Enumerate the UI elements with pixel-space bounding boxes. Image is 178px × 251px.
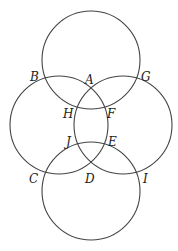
circle-bottom [42, 142, 140, 240]
label-f: F [106, 107, 116, 121]
label-a: A [84, 73, 94, 87]
circle-left [10, 76, 108, 174]
label-g: G [141, 70, 151, 84]
label-e: E [107, 135, 117, 149]
label-h: H [62, 107, 74, 121]
label-c: C [29, 172, 38, 186]
label-i: I [142, 172, 148, 186]
label-b: B [29, 70, 39, 84]
label-j: J [63, 135, 72, 149]
circle-right [74, 76, 172, 174]
four-circle-diagram: A B G H F J E C D I [0, 0, 178, 251]
circle-top [42, 11, 140, 109]
label-d: D [84, 172, 95, 186]
